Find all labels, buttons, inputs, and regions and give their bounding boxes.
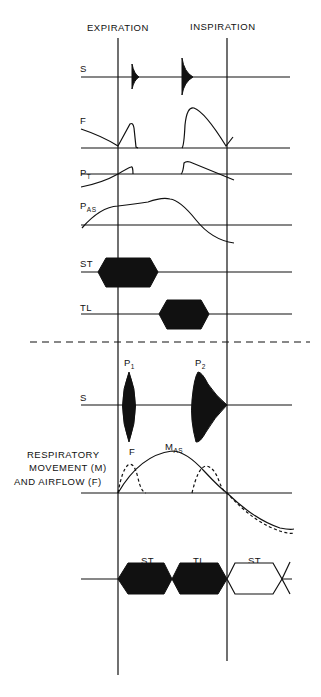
f-curve-inspiration bbox=[182, 108, 233, 148]
respiratory-label-line2: MOVEMENT (M) bbox=[29, 462, 107, 473]
airflow-curve-label: F bbox=[129, 446, 135, 457]
airflow-curve-expiration bbox=[118, 464, 146, 493]
f-curve-expiration bbox=[81, 124, 138, 149]
s-spike-inspiration bbox=[182, 58, 193, 95]
p2-sound-burst bbox=[192, 372, 228, 442]
pas-curve bbox=[82, 198, 234, 243]
row-label-st: ST bbox=[80, 258, 93, 269]
row-label-s-lower: S bbox=[80, 392, 87, 403]
st-bar-next-outline bbox=[227, 563, 282, 594]
pt-curve-inspiration bbox=[181, 162, 234, 180]
row-label-pas: PAS bbox=[80, 200, 97, 213]
row-label-f: F bbox=[80, 115, 86, 126]
respiratory-timing-diagram: EXPIRATION INSPIRATION S F PT PAS ST TL … bbox=[0, 0, 321, 697]
tl-bar-lower bbox=[172, 563, 227, 594]
expiration-header: EXPIRATION bbox=[87, 22, 149, 33]
respiratory-label-line3: AND AIRFLOW (F) bbox=[14, 476, 102, 487]
movement-curve bbox=[118, 451, 294, 529]
row-label-tl: TL bbox=[80, 302, 92, 313]
st-bar-upper bbox=[98, 258, 158, 287]
airflow-curve-inspiration bbox=[192, 466, 294, 533]
peak-label-p1: P1 bbox=[124, 357, 135, 370]
p1-sound-burst bbox=[123, 372, 136, 442]
tl-bar-upper bbox=[159, 300, 209, 329]
respiratory-label-line1: RESPIRATORY bbox=[27, 449, 100, 460]
peak-label-p2: P2 bbox=[195, 357, 206, 370]
st-bar-lower bbox=[118, 563, 172, 594]
st-next-continuation-down bbox=[282, 579, 290, 594]
row-label-s: S bbox=[80, 63, 87, 74]
inspiration-header: INSPIRATION bbox=[190, 21, 256, 32]
st-next-continuation-up bbox=[282, 562, 290, 579]
s-spike-expiration bbox=[132, 64, 139, 89]
